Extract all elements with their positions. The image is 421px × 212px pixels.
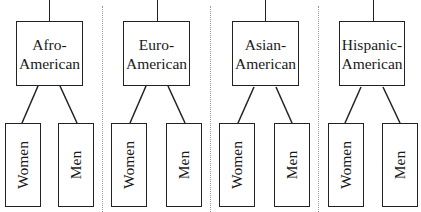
- leaf-box-men: Men: [166, 123, 202, 207]
- leaf-label: Women: [120, 141, 138, 189]
- group-label-line1: Euro-: [126, 35, 187, 54]
- group-box-afro-american: Afro- American: [16, 21, 83, 86]
- group-label-line2: American: [126, 54, 187, 73]
- group-box-asian-american: Asian- American: [232, 21, 299, 86]
- leaf-box-men: Men: [382, 123, 418, 207]
- leaf-box-women: Women: [328, 123, 364, 207]
- leaf-box-women: Women: [111, 123, 147, 207]
- leaf-box-women: Women: [219, 123, 255, 207]
- leaf-label: Men: [391, 151, 409, 179]
- leaf-label: Women: [228, 141, 246, 189]
- leaf-box-men: Men: [274, 123, 310, 207]
- group-label-line1: Afro-: [19, 35, 80, 54]
- group-label-line1: Asian-: [235, 35, 296, 54]
- parent-connector: [373, 0, 374, 21]
- leaf-label: Men: [175, 151, 193, 179]
- parent-connector: [265, 0, 266, 21]
- leaf-box-men: Men: [58, 123, 94, 207]
- group-label-line1: Hispanic-: [341, 35, 402, 54]
- panel-divider: [318, 6, 319, 212]
- group-box-euro-american: Euro- American: [123, 21, 190, 86]
- parent-connector: [49, 0, 50, 21]
- leaf-label: Men: [67, 151, 85, 179]
- group-label-line2: American: [235, 54, 296, 73]
- parent-connector: [157, 0, 158, 21]
- panel-divider: [210, 6, 211, 212]
- leaf-label: Women: [337, 141, 355, 189]
- group-box-hispanic-american: Hispanic- American: [339, 21, 405, 86]
- leaf-label: Men: [283, 151, 301, 179]
- leaf-label: Women: [14, 141, 32, 189]
- group-label-line2: American: [341, 54, 402, 73]
- panel-divider: [102, 6, 103, 212]
- leaf-box-women: Women: [5, 123, 41, 207]
- group-label-line2: American: [19, 54, 80, 73]
